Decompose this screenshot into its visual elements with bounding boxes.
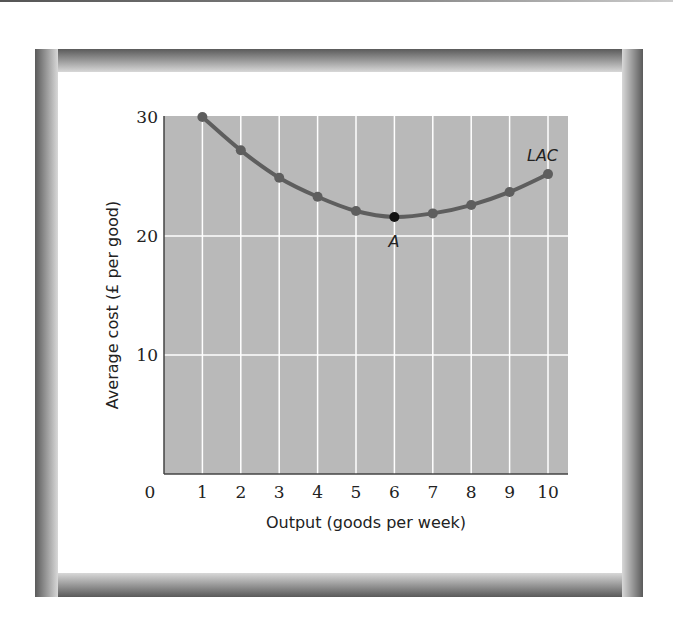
y-axis-title: Average cost (£ per good) — [103, 201, 122, 409]
data-point — [543, 169, 553, 179]
x-tick-label: 2 — [235, 482, 246, 502]
data-point — [274, 173, 284, 183]
x-tick-label: 9 — [504, 482, 515, 502]
data-point — [351, 206, 361, 216]
y-tick-label: 30 — [136, 107, 158, 127]
x-tick-label: 6 — [389, 482, 400, 502]
plot-area — [164, 116, 568, 474]
data-point — [313, 192, 323, 202]
x-tick-labels: 012345678910 — [145, 482, 559, 502]
y-tick-labels: 102030 — [136, 107, 158, 365]
x-tick-label: 10 — [537, 482, 559, 502]
point-a-marker — [389, 212, 399, 222]
x-tick-label: 0 — [145, 482, 156, 502]
lac-curve-label: LAC — [527, 146, 559, 165]
x-tick-label: 3 — [274, 482, 285, 502]
data-point — [236, 145, 246, 155]
x-tick-label: 4 — [312, 482, 323, 502]
data-point — [428, 208, 438, 218]
x-tick-label: 1 — [197, 482, 208, 502]
data-point — [197, 112, 207, 122]
x-tick-label: 8 — [466, 482, 477, 502]
x-axis-title: Output (goods per week) — [266, 513, 466, 532]
data-point — [505, 187, 515, 197]
lac-chart: 012345678910 102030 LAC A Output (goods … — [0, 0, 673, 632]
data-point — [466, 200, 476, 210]
x-tick-label: 7 — [427, 482, 438, 502]
y-tick-label: 20 — [136, 226, 158, 246]
y-tick-label: 10 — [136, 345, 158, 365]
point-a-label: A — [387, 232, 399, 251]
x-tick-label: 5 — [351, 482, 362, 502]
